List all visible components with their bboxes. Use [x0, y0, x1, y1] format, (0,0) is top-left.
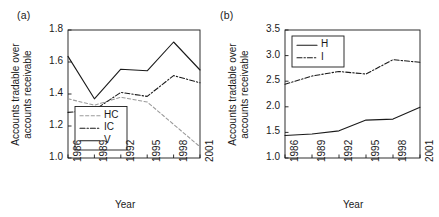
panel-b-plot-area	[215, 0, 439, 217]
y-tick-label: 3.0	[255, 49, 280, 60]
legend-label-V: V	[104, 134, 111, 145]
y-tick-label: 1.4	[38, 87, 63, 98]
x-tick-label: 2001	[204, 140, 215, 162]
legend-label-IC: IC	[104, 121, 114, 132]
y-tick-label: 2.5	[255, 74, 280, 85]
panel-a: (a) Accounts tradable over accounts rece…	[0, 0, 215, 217]
y-tick-label: 1.0	[255, 151, 280, 162]
legend-label-HC: HC	[104, 109, 118, 120]
figure-two-panel-line-charts: (a) Accounts tradable over accounts rece…	[0, 0, 439, 217]
x-tick-label: 1992	[125, 140, 136, 162]
y-tick-label: 2.0	[255, 100, 280, 111]
x-tick-label: 1986	[72, 140, 83, 162]
x-tick-label: 1992	[343, 140, 354, 162]
y-tick-label: 1.6	[38, 55, 63, 66]
panel-b: (b) Accounts tradable over accounts rece…	[215, 0, 439, 217]
x-tick-label: 2001	[424, 140, 435, 162]
series-line-H	[285, 107, 420, 135]
legend-box	[292, 36, 344, 67]
series-line-V	[68, 42, 200, 99]
panel-a-x-axis-title: Year	[115, 199, 135, 210]
x-tick-label: 1998	[178, 140, 189, 162]
x-tick-label: 1995	[151, 140, 162, 162]
x-tick-label: 1995	[370, 140, 381, 162]
legend-label-H: H	[321, 38, 328, 49]
x-tick-label: 1998	[397, 140, 408, 162]
x-tick-label: 1989	[316, 140, 327, 162]
x-tick-label: 1986	[289, 140, 300, 162]
y-tick-label: 1.0	[38, 151, 63, 162]
y-tick-label: 1.2	[38, 119, 63, 130]
panel-b-x-axis-title: Year	[343, 199, 363, 210]
y-tick-label: 3.5	[255, 23, 280, 34]
legend-label-I: I	[321, 51, 324, 62]
y-tick-label: 1.8	[38, 23, 63, 34]
y-tick-label: 1.5	[255, 125, 280, 136]
